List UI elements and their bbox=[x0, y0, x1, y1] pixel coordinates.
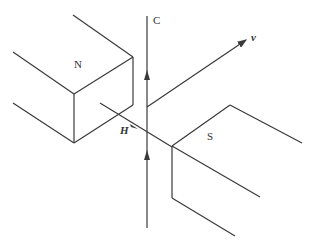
south-pole-label: S bbox=[207, 130, 213, 142]
current-arrow-upper-icon bbox=[144, 70, 150, 80]
velocity-vector: v bbox=[147, 31, 256, 107]
current-arrow-lower-icon bbox=[144, 150, 150, 160]
magnet-conductor-diagram: N H C v S bbox=[0, 0, 313, 246]
field-arrow-icon bbox=[130, 124, 138, 129]
south-magnet: S bbox=[172, 105, 302, 236]
velocity-label: v bbox=[251, 31, 256, 43]
conductor: C bbox=[144, 14, 160, 228]
north-pole-label: N bbox=[74, 58, 82, 70]
conductor-label: C bbox=[153, 14, 160, 26]
field-line: H bbox=[100, 103, 172, 147]
field-label: H bbox=[119, 124, 129, 136]
north-magnet: N bbox=[13, 15, 133, 143]
